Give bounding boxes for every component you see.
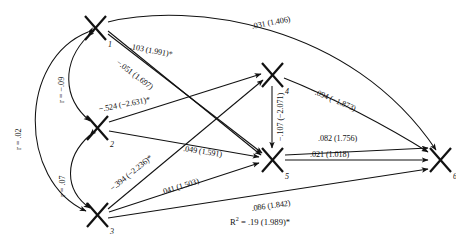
corr-2-3: [71, 135, 91, 208]
path-label-4-5: −.107 (−2.071): [276, 93, 285, 141]
node-5: [262, 148, 283, 172]
node-label-2: 2: [110, 140, 114, 149]
node-label-5: 5: [285, 172, 289, 181]
path-label-5-6-alt: .082 (1.756): [318, 134, 357, 143]
corr-1-2: [69, 36, 90, 121]
node-label-4: 4: [285, 87, 289, 96]
corr-label-2-3: r = .07: [58, 175, 67, 197]
path-5-6-alt: [285, 148, 428, 155]
node-4: [262, 63, 283, 87]
path-label-5-6: .021 (1.018): [310, 150, 349, 159]
corr-label-1-2: r = −.09: [57, 77, 66, 103]
node-2: [87, 116, 108, 140]
node-label-3: 3: [109, 227, 114, 236]
corr-label-1-3: r = .02: [14, 128, 23, 150]
r-squared-label: R2 = .19 (1.989)*: [230, 216, 290, 227]
path-diagram: 1 2 3 4 5 6 r = .02 r = −.09 r = .07 .03…: [0, 0, 456, 246]
node-label-1: 1: [108, 40, 112, 49]
node-1: [85, 16, 106, 40]
node-6: [430, 148, 451, 172]
r2-value: = .19 (1.989)*: [239, 217, 290, 227]
node-3: [87, 203, 108, 227]
diagram-canvas: 1 2 3 4 5 6: [0, 0, 456, 246]
